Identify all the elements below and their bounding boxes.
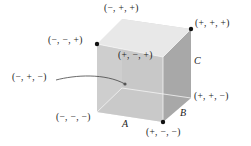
vertex-label-top-front-right: (+, −, +) [118,51,153,61]
vertex-label-bottom-back-right: (+, +, −) [194,92,229,102]
vertex-label-bottom-front-left: (−, −, −) [56,113,91,123]
vertex-label-top-back-right: (+, +, +) [195,19,230,29]
cube-diagram: (−, +, +) (−, −, +) (+, +, +) (+, −, +) … [0,0,251,146]
edge-label-c: C [194,56,201,66]
vertex-dot-bottom-front-right [161,120,165,124]
vertex-label-bottom-back-left: (−, +, −) [12,73,47,83]
edge-label-b: B [180,108,186,118]
vertex-dot-top-front-left [95,42,99,46]
edge-label-a: A [122,119,128,129]
vertex-label-top-front-left: (−, −, +) [48,36,83,46]
vertex-label-bottom-front-right: (+, −, −) [146,128,181,138]
vertex-dot-top-back-right [189,27,193,31]
vertex-label-top-back-left: (−, +, +) [104,4,139,14]
vertex-dot-bottom-back-left [123,82,126,85]
